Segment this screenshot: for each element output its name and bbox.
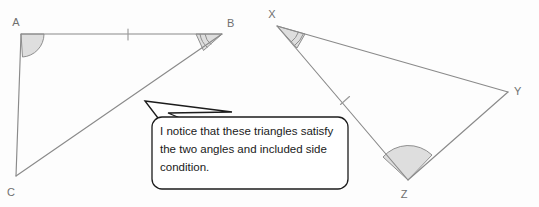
callout-text: I notice that these triangles satisfy th… xyxy=(160,122,342,176)
vertex-label-y: Y xyxy=(514,85,522,97)
vertex-label-z: Z xyxy=(401,188,408,200)
tick-mark-xz xyxy=(341,97,350,105)
angle-mark-a xyxy=(21,34,44,57)
angle-mark-x-fill xyxy=(277,26,305,48)
vertex-label-x: X xyxy=(268,8,276,20)
geometry-figure-canvas: A B C X Y Z xyxy=(0,0,539,207)
vertex-label-b: B xyxy=(227,17,234,29)
angle-mark-z xyxy=(383,146,432,180)
vertex-label-a: A xyxy=(12,16,20,28)
callout-tail xyxy=(145,101,232,118)
side-xy xyxy=(277,26,508,92)
vertex-label-c: C xyxy=(7,186,15,198)
side-ca xyxy=(16,34,21,176)
side-yz xyxy=(408,92,508,180)
